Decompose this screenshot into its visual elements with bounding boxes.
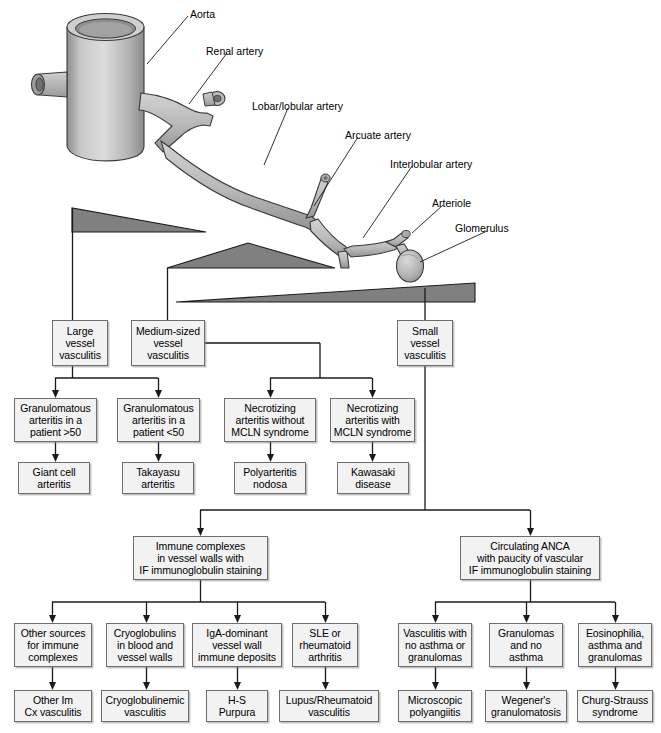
node-wegeners-granulomatosis[interactable]: Wegener'sgranulomatosis [485,690,567,722]
node-iga-dominant-deposits[interactable]: IgA-dominantvessel wallimmune deposits [192,623,282,667]
node-necrotizing-arteritis-without-mcln[interactable]: Necrotizingarteritis withoutMCLN syndrom… [224,398,316,442]
node-polyarteritis-nodosa[interactable]: Polyarteritisnodosa [234,462,306,494]
node-eosinophilia-asthma-granulomas[interactable]: Eosinophilia,asthma andgranulomas [578,623,652,667]
node-granulomas-no-asthma[interactable]: Granulomasand noasthma [489,623,563,667]
node-necrotizing-arteritis-with-mcln[interactable]: Necrotizingarteritis withMCLN syndrome [330,398,415,442]
node-hs-purpura[interactable]: H-SPurpura [206,690,268,722]
medium-vessel-wedge [167,243,335,268]
aorta-illustration [32,14,145,161]
anatomy-label-aorta: Aorta [190,8,215,20]
node-takayasu-arteritis[interactable]: Takayasuarteritis [122,462,194,494]
node-microscopic-polyangiitis[interactable]: Microscopicpolyangiitis [398,690,472,722]
node-sle-or-rheumatoid-arthritis[interactable]: SLE orrheumatoidarthritis [292,623,358,667]
node-immune-complexes[interactable]: Immune complexesin vessel walls withIF i… [133,536,268,580]
node-granulomatous-arteritis-under-50[interactable]: Granulomatousarteritis in apatient <50 [117,398,200,442]
node-cryoglobulins[interactable]: Cryoglobulinsin blood andvessel walls [106,623,184,667]
node-giant-cell-arteritis[interactable]: Giant cellarteritis [18,462,90,494]
large-vessel-wedge [72,208,206,232]
anatomy-label-arcuate-artery: Arcuate artery [345,129,411,141]
node-other-sources-immune-complexes[interactable]: Other sourcesfor immunecomplexes [14,623,92,667]
node-vasculitis-no-asthma-granulomas[interactable]: Vasculitis withno asthma orgranulomas [398,623,472,667]
anatomy-label-arteriole: Arteriole [432,197,471,209]
node-small-vessel-vasculitis[interactable]: Smallvesselvasculitis [397,320,453,366]
flow-connectors [49,208,619,690]
anatomy-label-glomerulus: Glomerulus [455,222,509,234]
node-other-im-cx-vasculitis[interactable]: Other ImCx vasculitis [14,690,92,722]
node-circulating-anca[interactable]: Circulating ANCAwith paucity of vascular… [460,536,600,580]
node-lupus-rheumatoid-vasculitis[interactable]: Lupus/Rheumatoidvasculitis [279,690,379,722]
anatomy-label-interlobular-artery: Interlobular artery [390,158,472,170]
node-churg-strauss-syndrome[interactable]: Churg-Strausssyndrome [577,690,653,722]
node-large-vessel-vasculitis[interactable]: Largevesselvasculitis [52,320,108,366]
vasculitis-classification-figure: Aorta Renal artery Lobar/lobular artery … [0,0,661,733]
small-vessel-wedge [176,283,475,302]
node-medium-sized-vessel-vasculitis[interactable]: Medium-sizedvesselvasculitis [131,320,205,366]
anatomy-label-lobar-lobular-artery: Lobar/lobular artery [252,100,343,112]
anatomy-label-renal-artery: Renal artery [206,45,263,57]
node-granulomatous-arteritis-over-50[interactable]: Granulomatousarteritis in apatient >50 [14,398,97,442]
node-kawasaki-disease[interactable]: Kawasakidisease [337,462,409,494]
node-cryoglobulinemic-vasculitis[interactable]: Cryoglobulinemicvasculitis [101,690,189,722]
